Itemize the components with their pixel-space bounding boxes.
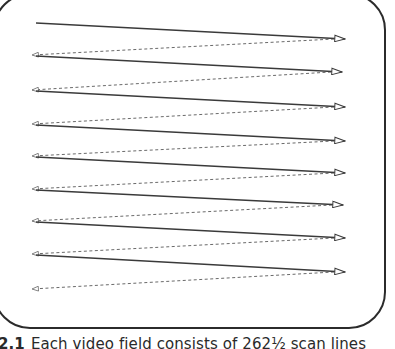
scan-line: [36, 255, 345, 272]
retrace-line: [32, 205, 332, 221]
retrace-line: [32, 72, 331, 90]
figure-caption: 2.1Each video field consists of 262½ sca…: [0, 335, 366, 349]
caption-text: Each video field consists of 262½ scan l…: [31, 335, 366, 349]
scan-line: [36, 157, 345, 173]
scan-line: [36, 56, 342, 72]
scan-line-diagram: [0, 0, 395, 349]
scan-lines: [36, 23, 345, 272]
scan-line: [36, 190, 343, 205]
retrace-line: [32, 107, 334, 124]
retrace-line: [32, 39, 334, 55]
retrace-line: [32, 141, 334, 156]
retrace-line: [32, 272, 334, 289]
scan-line: [36, 125, 345, 141]
scan-line: [36, 222, 345, 238]
screen-frame: [0, 0, 385, 328]
retrace-line: [32, 173, 334, 189]
retrace-line: [32, 238, 334, 254]
caption-number: 2.1: [0, 335, 25, 349]
scan-line: [36, 91, 345, 107]
scan-line: [36, 23, 345, 39]
